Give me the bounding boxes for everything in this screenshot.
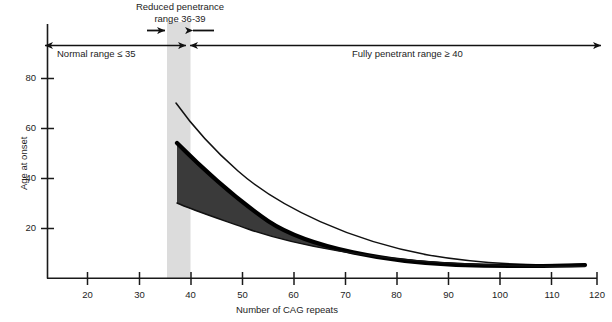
x-tick-label-110: 110 — [536, 289, 568, 300]
x-tick-label-120: 120 — [581, 289, 612, 300]
reduced-penetrance-title-line1: Reduced penetrance — [136, 1, 224, 12]
y-tick-label-20: 20 — [10, 222, 36, 233]
upper-envelope-curve — [176, 103, 585, 265]
y-tick-label-80: 80 — [10, 72, 36, 83]
reduced-penetrance-title: Reduced penetrance range 36-39 — [118, 1, 242, 25]
onset-distribution-band — [177, 143, 585, 267]
normal-range-label: Normal range ≤ 35 — [57, 48, 136, 60]
y-tick-label-40: 40 — [10, 172, 36, 183]
x-axis-title: Number of CAG repeats — [236, 304, 338, 316]
x-tick-label-90: 90 — [433, 289, 464, 300]
x-tick-label-80: 80 — [381, 289, 412, 300]
x-tick-label-50: 50 — [227, 289, 258, 300]
fully-penetrant-range-label: Fully penetrant range ≥ 40 — [352, 48, 463, 60]
figure-root: Reduced penetrance range 36-39 Normal ra… — [0, 0, 612, 322]
x-tick-label-100: 100 — [484, 289, 516, 300]
reduced-penetrance-title-line2: range 36-39 — [154, 13, 205, 24]
x-tick-label-60: 60 — [278, 289, 309, 300]
x-tick-label-30: 30 — [124, 289, 155, 300]
x-tick-label-70: 70 — [330, 289, 361, 300]
y-tick-label-60: 60 — [10, 122, 36, 133]
x-tick-label-20: 20 — [72, 289, 103, 300]
x-tick-label-40: 40 — [175, 289, 206, 300]
